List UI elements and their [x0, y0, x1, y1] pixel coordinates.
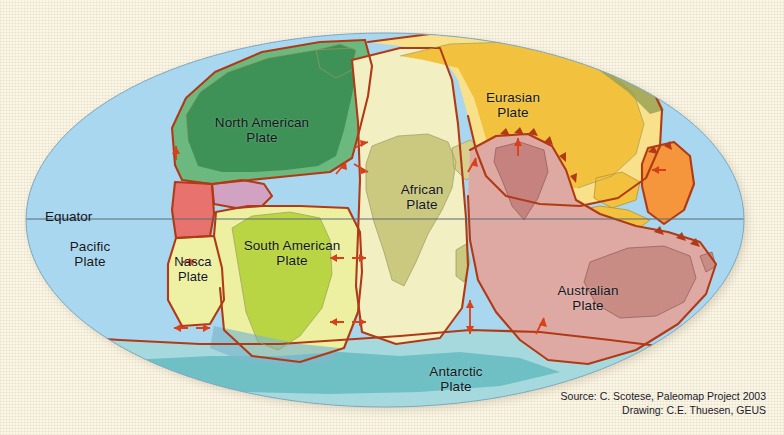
credit-source: Source: C. Scotese, Paleomap Project 200…: [561, 389, 766, 403]
globe-content: [0, 0, 784, 435]
credit-block: Source: C. Scotese, Paleomap Project 200…: [561, 389, 766, 417]
equator-label: Equator: [45, 209, 92, 224]
plate-tectonics-map-figure: Equator Pacific Plate North American Pla…: [0, 0, 784, 435]
world-map-graphic: [0, 0, 784, 435]
credit-drawing: Drawing: C.E. Thuesen, GEUS: [561, 403, 766, 417]
cocos-plate-region: [172, 182, 214, 238]
